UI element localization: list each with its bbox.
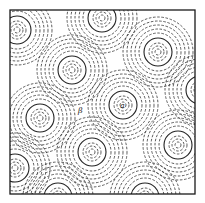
dashed-contour	[52, 191, 64, 203]
dashed-contour	[175, 142, 181, 148]
dashed-contour	[49, 47, 95, 93]
ring-group	[0, 0, 205, 203]
solid-contour	[88, 4, 116, 32]
solid-contour	[131, 183, 159, 203]
dashed-contour	[123, 17, 193, 87]
concentric-ring-set	[123, 17, 193, 87]
solid-contour	[3, 16, 31, 44]
dashed-contour	[73, 133, 111, 171]
concentric-ring-set	[37, 35, 107, 105]
dashed-contour	[86, 146, 98, 158]
dashed-contour	[0, 133, 50, 203]
dashed-contour	[69, 129, 115, 175]
dashed-contour	[55, 194, 61, 200]
label-beta: β	[77, 106, 83, 115]
dashed-contour	[143, 110, 205, 180]
dashed-contour	[181, 71, 205, 109]
concentric-ring-set	[110, 162, 180, 203]
dashed-contour	[14, 27, 20, 33]
concentric-circle-lattice-diagram: a β	[0, 0, 205, 203]
dashed-contour	[0, 0, 48, 61]
dashed-contour	[69, 67, 75, 73]
dashed-contour	[135, 29, 181, 75]
dashed-contour	[96, 12, 108, 24]
dashed-contour	[127, 21, 189, 83]
solid-contour	[164, 131, 192, 159]
dashed-contour	[159, 126, 197, 164]
concentric-ring-set	[5, 83, 75, 153]
dashed-contour	[39, 178, 77, 203]
dashed-contour	[155, 49, 161, 55]
concentric-ring-set	[143, 110, 205, 180]
solid-contour	[78, 138, 106, 166]
dashed-contour	[41, 39, 103, 101]
dashed-contour	[142, 194, 148, 200]
dashed-contour	[197, 87, 203, 93]
concentric-ring-set	[0, 133, 50, 203]
dashed-contour	[152, 46, 164, 58]
dashed-contour	[118, 170, 172, 203]
solid-contour	[58, 56, 86, 84]
concentric-ring-set	[67, 0, 137, 53]
dashed-contour	[99, 15, 105, 21]
dashed-contour	[172, 139, 184, 151]
solid-contour	[44, 183, 72, 203]
dashed-contour	[34, 112, 46, 124]
dashed-contour	[31, 170, 85, 203]
dashed-contour	[53, 51, 91, 89]
dashed-contour	[114, 166, 176, 203]
dashed-contour	[191, 81, 205, 99]
dashed-contour	[61, 121, 123, 183]
dashed-contour	[21, 99, 59, 137]
dashed-contour	[66, 64, 78, 76]
dashed-contour	[173, 63, 205, 117]
dashed-contour	[139, 33, 177, 71]
solid-contour	[144, 38, 172, 66]
dashed-contour	[49, 188, 67, 203]
dashed-contour	[12, 165, 18, 171]
dashed-contour	[9, 162, 21, 174]
dashed-contour	[89, 149, 95, 155]
solid-contour	[26, 104, 54, 132]
dashed-contour	[9, 87, 71, 149]
dashed-contour	[147, 114, 205, 176]
dashed-contour	[37, 35, 107, 105]
dashed-contour	[0, 3, 44, 57]
dashed-contour	[0, 145, 38, 191]
dashed-contour	[79, 0, 125, 41]
dashed-contour	[139, 191, 151, 203]
label-a: a	[120, 101, 125, 110]
dashed-contour	[37, 115, 43, 121]
solid-contour	[1, 154, 29, 182]
dashed-contour	[75, 0, 129, 45]
dashed-contour	[11, 24, 23, 36]
dashed-contour	[136, 188, 154, 203]
dashed-contour	[126, 178, 164, 203]
dashed-contour	[5, 83, 75, 153]
dashed-contour	[155, 122, 201, 168]
